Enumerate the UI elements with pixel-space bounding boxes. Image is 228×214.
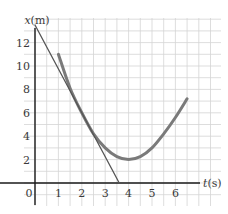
x-tick-label: 10 bbox=[16, 60, 30, 73]
x-tick-label: 6 bbox=[23, 107, 30, 120]
t-tick-label: 5 bbox=[149, 187, 156, 200]
position-curve bbox=[58, 54, 187, 159]
x-axis-title: t(s) bbox=[203, 177, 222, 190]
t-tick-label: 1 bbox=[55, 187, 62, 200]
y-axis-title: x(m) bbox=[24, 14, 49, 27]
t-tick-label: 2 bbox=[78, 187, 85, 200]
position-time-chart: 012345624681012x(m)t(s) bbox=[0, 0, 228, 214]
t-tick-label: 4 bbox=[125, 187, 132, 200]
grid bbox=[24, 18, 221, 206]
t-tick-label: 3 bbox=[102, 187, 109, 200]
t-tick-label: 6 bbox=[172, 187, 179, 200]
t-tick-label: 0 bbox=[26, 187, 33, 200]
x-tick-label: 12 bbox=[16, 37, 30, 50]
x-tick-label: 2 bbox=[23, 154, 30, 167]
x-tick-label: 8 bbox=[23, 83, 30, 96]
x-tick-label: 4 bbox=[23, 130, 30, 143]
